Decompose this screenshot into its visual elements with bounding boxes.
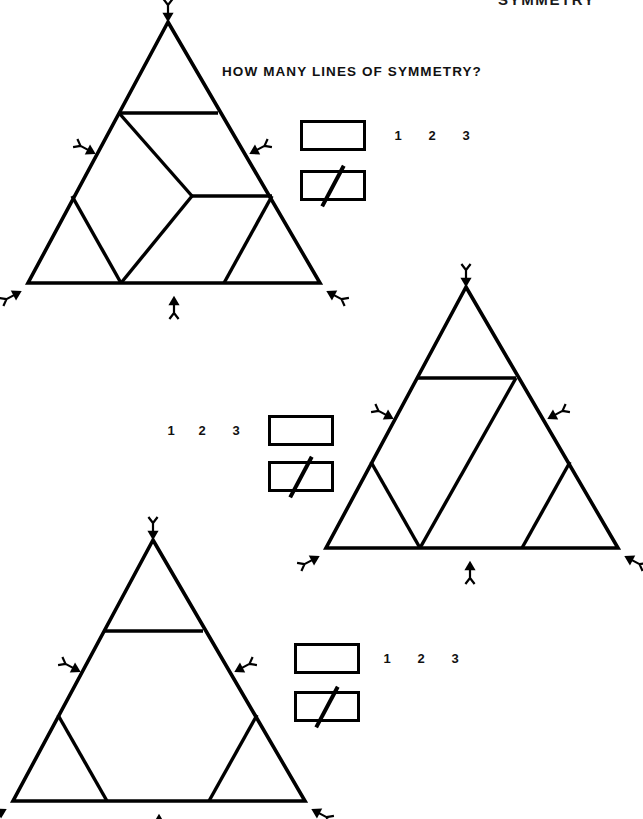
answer-group-3: 1 2 3	[0, 0, 643, 819]
choice-3-option-3[interactable]: 3	[447, 651, 463, 666]
choice-3-option-2[interactable]: 2	[413, 651, 429, 666]
answer-box-empty-3[interactable]	[294, 643, 360, 674]
choice-3-option-1[interactable]: 1	[379, 651, 395, 666]
worksheet-page: SYMMETRY HOW MANY LINES OF SYMMETRY?	[0, 0, 643, 819]
